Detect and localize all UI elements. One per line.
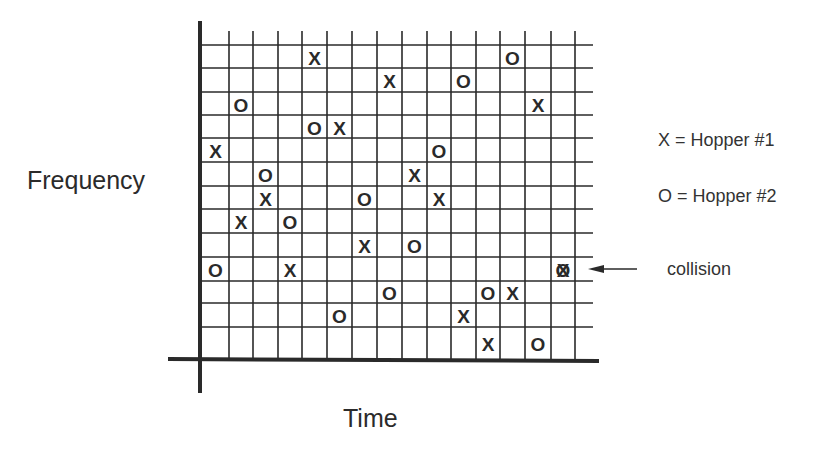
hopper-1-mark: X: [358, 236, 371, 257]
hopper-1-mark: X: [506, 283, 519, 304]
legend-hopper-1: X = Hopper #1: [658, 130, 775, 151]
hopper-2-mark: O: [283, 212, 298, 233]
hopper-2-mark: O: [382, 283, 397, 304]
hopper-1-mark: X: [383, 71, 396, 92]
hopper-1-mark: X: [333, 118, 346, 139]
hopper-1-mark: X: [284, 260, 297, 281]
x-axis-label: Time: [343, 404, 398, 433]
y-axis-label: Frequency: [27, 166, 145, 195]
hopper-2-mark: O: [481, 283, 496, 304]
time-frequency-grid: XXXXXXXXXXXXXXXOOOOOOOOOOOOOOO: [0, 0, 830, 457]
collision-label: collision: [667, 259, 731, 280]
hopper-1-mark: X: [209, 141, 222, 162]
hopper-1-mark: X: [532, 95, 545, 116]
hopper-2-mark: O: [357, 189, 372, 210]
hopper-2-mark: O: [432, 141, 447, 162]
hopper-1-mark: X: [433, 189, 446, 210]
hopper-1-mark: X: [482, 334, 495, 355]
hopper-1-mark: X: [408, 165, 421, 186]
hopper-2-mark: O: [234, 95, 249, 116]
hopper-2-mark: O: [208, 260, 223, 281]
hopper-1-mark: X: [457, 306, 470, 327]
hopper-2-mark: O: [258, 165, 273, 186]
collision-arrow-icon: [588, 265, 637, 273]
hopper-1-mark: X: [235, 212, 248, 233]
hopper-2-mark-collision: O: [556, 260, 571, 281]
hop-marks: XXXXXXXXXXXXXXXOOOOOOOOOOOOOOO: [208, 48, 570, 356]
hopper-2-mark: O: [531, 334, 546, 355]
hopper-2-mark: O: [456, 71, 471, 92]
legend-hopper-2: O = Hopper #2: [658, 186, 777, 207]
hopper-1-mark: X: [308, 48, 321, 69]
hopper-2-mark: O: [307, 118, 322, 139]
hopper-2-mark: O: [505, 48, 520, 69]
hopper-2-mark: O: [407, 236, 422, 257]
frequency-hopping-diagram: XXXXXXXXXXXXXXXOOOOOOOOOOOOOOO Frequency…: [0, 0, 830, 457]
hopper-1-mark: X: [259, 189, 272, 210]
hopper-2-mark: O: [332, 306, 347, 327]
